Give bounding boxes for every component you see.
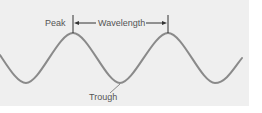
trough-label: Trough (89, 93, 117, 102)
wave-diagram (0, 0, 262, 113)
wavelength-label: Wavelength (98, 19, 145, 28)
arrowhead-left-icon (74, 21, 79, 25)
peak-label: Peak (45, 19, 66, 28)
arrowhead-right-icon (162, 21, 167, 25)
sine-wave (0, 33, 242, 83)
